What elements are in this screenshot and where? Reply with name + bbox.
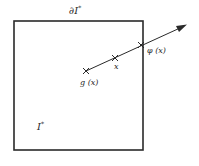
retraction-diagram: ∂I* I* g (x) x φ (x) [0, 0, 199, 166]
region-label: I* [37, 122, 44, 132]
cross-icon [112, 55, 118, 61]
arrow-icon [176, 25, 187, 33]
point-g-label: g (x) [80, 79, 98, 87]
point-phi-label: φ (x) [147, 47, 166, 55]
point-x-label: x [114, 63, 119, 71]
square-boundary [14, 21, 143, 150]
diagram-canvas [0, 0, 199, 166]
boundary-label: ∂I* [69, 6, 81, 16]
cross-icon [83, 68, 89, 74]
